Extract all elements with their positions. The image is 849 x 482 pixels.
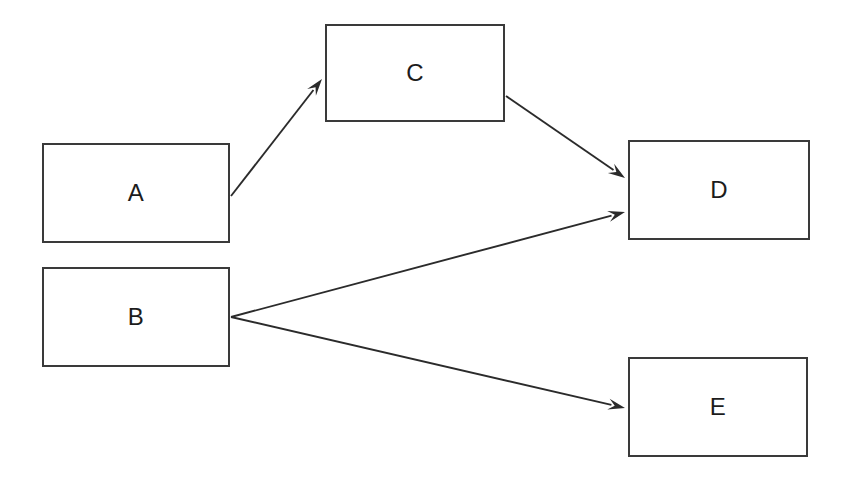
edge-arrowhead-b-e <box>607 399 625 410</box>
edge-arrowhead-b-d <box>607 211 625 222</box>
node-b[interactable]: B <box>42 267 230 367</box>
edge-line-b-e <box>231 317 611 405</box>
node-a[interactable]: A <box>42 143 230 243</box>
edge-line-b-d <box>231 216 612 317</box>
node-c[interactable]: C <box>325 24 505 122</box>
diagram-canvas: A B C D E <box>0 0 849 482</box>
edge-line-c-d <box>506 96 614 170</box>
node-e-label: E <box>710 395 726 419</box>
node-e[interactable]: E <box>628 357 808 457</box>
node-c-label: C <box>406 61 424 85</box>
edge-arrowhead-c-d <box>608 164 625 178</box>
node-b-label: B <box>128 305 144 329</box>
node-a-label: A <box>128 181 144 205</box>
edge-line-a-c <box>231 90 313 196</box>
edge-arrowhead-a-c <box>307 79 322 96</box>
node-d[interactable]: D <box>628 140 810 240</box>
node-d-label: D <box>710 178 728 202</box>
